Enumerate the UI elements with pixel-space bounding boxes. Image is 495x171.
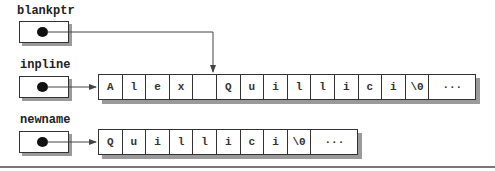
arrows-layer (0, 0, 495, 171)
blankptr-arrow (47, 32, 213, 72)
bottom-divider (0, 166, 495, 168)
